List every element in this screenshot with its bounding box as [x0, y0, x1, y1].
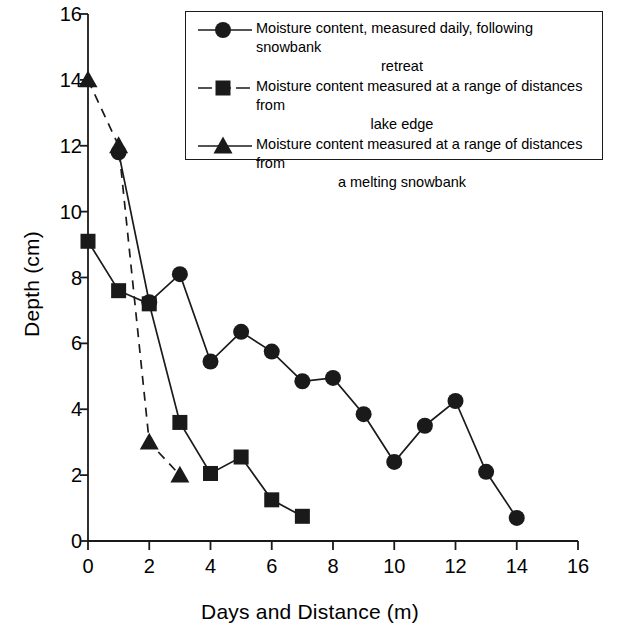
data-point-square [264, 492, 279, 507]
data-point-circle [203, 353, 219, 369]
legend-marker-circle [194, 19, 256, 39]
legend-label: Moisture content, measured daily, follow… [256, 19, 594, 76]
legend-label-line1: Moisture content measured at a range of … [256, 136, 582, 171]
series-square [81, 234, 310, 524]
legend-item: Moisture content measured at a range of … [194, 135, 594, 192]
data-point-circle [417, 418, 433, 434]
data-point-square [295, 509, 310, 524]
legend-label: Moisture content measured at a range of … [256, 77, 594, 134]
legend-label-line2: a melting snowbank [256, 173, 594, 192]
data-point-circle [386, 454, 402, 470]
data-point-square [81, 234, 96, 249]
data-point-square [142, 296, 157, 311]
legend-item: Moisture content measured at a range of … [194, 77, 594, 134]
legend-label-line1: Moisture content, measured daily, follow… [256, 20, 533, 55]
data-point-triangle [109, 136, 128, 153]
series-line [88, 80, 180, 475]
data-point-circle [215, 22, 231, 38]
data-point-circle [264, 344, 280, 360]
data-point-circle [356, 406, 372, 422]
series-line [88, 241, 302, 516]
data-point-square [172, 415, 187, 430]
data-point-circle [325, 370, 341, 386]
data-point-circle [509, 510, 525, 526]
legend-marker-square [194, 77, 256, 97]
legend: Moisture content, measured daily, follow… [185, 11, 603, 160]
legend-label: Moisture content measured at a range of … [256, 135, 594, 192]
data-point-circle [233, 324, 249, 340]
data-point-circle [448, 393, 464, 409]
data-point-square [216, 81, 231, 96]
data-point-triangle [79, 70, 98, 87]
data-point-square [203, 466, 218, 481]
legend-label-line1: Moisture content measured at a range of … [256, 78, 582, 113]
series-line [119, 152, 517, 518]
data-point-circle [172, 266, 188, 282]
data-point-circle [294, 373, 310, 389]
legend-item: Moisture content, measured daily, follow… [194, 19, 594, 76]
data-point-circle [478, 464, 494, 480]
data-point-triangle [140, 433, 159, 450]
chart-figure: Depth (cm) 0246810121416 0246810121416 D… [0, 0, 620, 642]
legend-marker-triangle [194, 135, 256, 155]
legend-label-line2: retreat [256, 57, 594, 76]
legend-label-line2: lake edge [256, 115, 594, 134]
data-point-triangle [214, 137, 233, 154]
data-point-square [111, 283, 126, 298]
data-point-square [234, 450, 249, 465]
